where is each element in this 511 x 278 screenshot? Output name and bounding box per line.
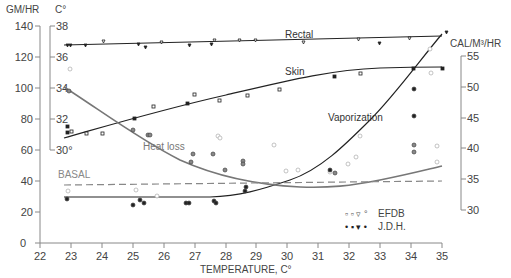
y-tick: 38 xyxy=(56,20,68,32)
heatloss-label: Heat loss xyxy=(143,141,185,152)
y-tick: 55 xyxy=(467,50,479,62)
x-tick: 32 xyxy=(343,250,355,262)
x-tick: 22 xyxy=(34,250,46,262)
chart: GM/HR C° CAL/M³/HR TEMPERATURE, C° 0 20 … xyxy=(0,0,511,278)
x-tick: 30 xyxy=(281,250,293,262)
y-tick: 0 xyxy=(20,237,26,249)
y-tick: 60 xyxy=(21,144,33,156)
y-axis-inner: 38 36 34 32 30° xyxy=(50,20,73,156)
y-tick: 100 xyxy=(15,82,33,94)
x-tick: 29 xyxy=(250,250,262,262)
vaporization-curve xyxy=(64,34,442,197)
y-tick: 32 xyxy=(56,113,68,125)
x-tick: 23 xyxy=(65,250,77,262)
y-tick: 36 xyxy=(56,51,68,63)
rectal-label: Rectal xyxy=(285,29,313,40)
y-tick: 40 xyxy=(21,175,33,187)
y-axis-right-title: CAL/M³/HR xyxy=(450,38,501,49)
heatloss-curve xyxy=(64,87,442,187)
legend: ▫ ▫ ▿ ° EFDB • ▪ ▾ • J.D.H. xyxy=(345,208,406,232)
y-tick: 30° xyxy=(56,144,73,156)
y-tick: 120 xyxy=(15,51,33,63)
y-axis-inner-title: C° xyxy=(55,4,66,15)
legend-efdb-markers: ▫ ▫ ▿ ° xyxy=(345,209,368,219)
x-tick: 34 xyxy=(405,250,417,262)
x-tick: 28 xyxy=(220,250,232,262)
rectal-curve xyxy=(64,36,442,45)
y-tick: 140 xyxy=(15,20,33,32)
y-tick: 40 xyxy=(467,142,479,154)
x-tick: 27 xyxy=(189,250,201,262)
y-tick: 45 xyxy=(467,112,479,124)
y-tick: 30 xyxy=(467,204,479,216)
y-tick: 80 xyxy=(21,113,33,125)
legend-jdh-markers: • ▪ ▾ • xyxy=(345,222,367,232)
y-axis-right: 55 50 45 40 35 30 xyxy=(461,50,479,216)
y-tick: 35 xyxy=(467,173,479,185)
x-tick: 31 xyxy=(312,250,324,262)
y-tick: 20 xyxy=(21,206,33,218)
x-tick: 35 xyxy=(436,250,448,262)
x-tick: 26 xyxy=(158,250,170,262)
basal-label: BASAL xyxy=(58,169,91,180)
x-tick: 33 xyxy=(374,250,386,262)
x-axis-title: TEMPERATURE, C° xyxy=(200,264,292,275)
x-tick: 25 xyxy=(127,250,139,262)
y-axis-outer-title: GM/HR xyxy=(6,4,39,15)
skin-label: Skin xyxy=(285,66,304,77)
y-axis-outer: 0 20 40 60 80 100 120 140 xyxy=(15,20,40,249)
vaporization-label: Vaporization xyxy=(328,112,383,123)
legend-efdb-label: EFDB xyxy=(378,208,405,219)
legend-jdh-label: J.D.H. xyxy=(378,221,406,232)
y-tick: 50 xyxy=(467,81,479,93)
x-axis: 22 23 24 25 26 27 28 29 30 31 32 33 34 3… xyxy=(34,243,448,262)
x-tick: 24 xyxy=(96,250,108,262)
